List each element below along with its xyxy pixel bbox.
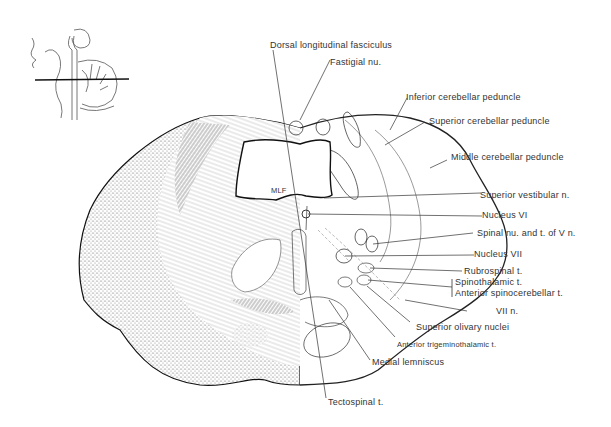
inset-cut-line	[35, 79, 129, 80]
label-superior-vestibular-nucleus: Superior vestibular n.	[480, 190, 569, 200]
label-mlf: MLF	[271, 186, 287, 196]
label-nucleus-vii: Nucleus VII	[474, 249, 522, 259]
label-dorsal-longitudinal-fasciculus: Dorsal longitudinal fasciculus	[270, 40, 392, 50]
label-vii-nerve: VII n.	[496, 306, 518, 316]
label-rubrospinal-tract: Rubrospinal t.	[464, 266, 522, 276]
inset-sagittal-sketch	[31, 29, 117, 120]
label-inferior-cerebellar-peduncle: Inferior cerebellar peduncle	[406, 92, 521, 102]
label-nucleus-vi: Nucleus VI	[482, 210, 528, 220]
label-superior-olivary-nuclei: Superior olivary nuclei	[416, 322, 509, 332]
label-superior-cerebellar-peduncle: Superior cerebellar peduncle	[429, 116, 550, 126]
label-anterior-spinocerebellar-tract: Anterior spinocerebellar t.	[455, 288, 563, 298]
label-tectospinal-tract: Tectospinal t.	[328, 397, 383, 407]
label-medial-lemniscus: Medial lemniscus	[372, 357, 444, 367]
label-fastigial-nucleus: Fastigial nu.	[330, 57, 381, 67]
pons-cross-section-figure: Dorsal longitudinal fasciculus Fastigial…	[0, 0, 611, 427]
label-anterior-trigeminothalamic-tract: Anterior trigeminothalamic t.	[397, 340, 496, 350]
label-spinal-nucleus-tract-v: Spinal nu. and t. of V n.	[477, 228, 576, 238]
label-middle-cerebellar-peduncle: Middle cerebellar peduncle	[451, 152, 564, 162]
label-spinothalamic-tract: Spinothalamic t.	[455, 277, 522, 287]
